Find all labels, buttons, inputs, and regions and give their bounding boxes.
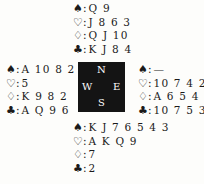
heart-icon: ♡ [6,77,16,91]
south-hand: ♠:K J 7 6 5 4 3 ♡:A K Q 9 ♢:7 ♣:2 [73,121,170,175]
east-hearts-cards: 10 7 4 2 [154,77,204,91]
west-clubs-row: ♣:A Q 9 6 [6,104,75,118]
heart-icon: ♡ [73,135,83,149]
separator: : [83,148,87,162]
south-clubs-row: ♣:2 [73,162,170,176]
south-diamonds-row: ♢:7 [73,148,170,162]
separator: : [148,63,152,77]
compass-table: N W E S [78,62,125,112]
heart-icon: ♡ [73,16,83,30]
compass-east-label: E [113,81,120,92]
east-diamonds-cards: A 6 5 4 3 [154,90,204,104]
north-hearts-cards: J 8 6 3 [89,16,132,30]
separator: : [83,16,87,30]
separator: : [83,43,87,57]
east-hand: ♠:— ♡:10 7 4 2 ♢:A 6 5 4 3 ♣:10 7 5 3 [138,63,204,117]
separator: : [83,135,87,149]
diamond-icon: ♢ [6,90,16,104]
separator: : [148,77,152,91]
south-spades-cards: K J 7 6 5 4 3 [89,121,170,135]
club-icon: ♣ [73,43,83,57]
south-clubs-cards: 2 [89,162,97,176]
north-clubs-cards: K J 8 4 [89,43,133,57]
separator: : [16,63,20,77]
compass-south-label: S [98,97,105,108]
heart-icon: ♡ [138,77,148,91]
separator: : [83,162,87,176]
west-clubs-cards: A Q 9 6 [22,104,70,118]
spade-icon: ♠ [73,2,83,16]
north-clubs-row: ♣:K J 8 4 [73,43,132,57]
east-spades-row: ♠:— [138,63,204,77]
club-icon: ♣ [73,162,83,176]
diamond-icon: ♢ [138,90,148,104]
diamond-icon: ♢ [73,29,83,43]
club-icon: ♣ [138,104,148,118]
west-hearts-cards: 5 [22,77,30,91]
separator: : [16,77,20,91]
north-diamonds-cards: Q J 10 [89,29,129,43]
separator: : [148,90,152,104]
west-hand: ♠:A 10 8 2 ♡:5 ♢:K 9 8 2 ♣:A Q 9 6 [6,63,75,117]
spade-icon: ♠ [6,63,16,77]
west-spades-row: ♠:A 10 8 2 [6,63,75,77]
north-spades-cards: Q 9 [89,2,111,16]
east-hearts-row: ♡:10 7 4 2 [138,77,204,91]
separator: : [16,104,20,118]
south-diamonds-cards: 7 [89,148,97,162]
west-diamonds-row: ♢:K 9 8 2 [6,90,75,104]
east-spades-cards: — [154,63,166,77]
north-diamonds-row: ♢:Q J 10 [73,29,132,43]
spade-icon: ♠ [138,63,148,77]
north-hand: ♠:Q 9 ♡:J 8 6 3 ♢:Q J 10 ♣:K J 8 4 [73,2,132,56]
south-spades-row: ♠:K J 7 6 5 4 3 [73,121,170,135]
south-hearts-cards: A K Q 9 [89,135,138,149]
separator: : [83,2,87,16]
north-hearts-row: ♡:J 8 6 3 [73,16,132,30]
east-clubs-cards: 10 7 5 3 [154,104,204,118]
north-spades-row: ♠:Q 9 [73,2,132,16]
east-diamonds-row: ♢:A 6 5 4 3 [138,90,204,104]
separator: : [16,90,20,104]
separator: : [83,121,87,135]
south-hearts-row: ♡:A K Q 9 [73,135,170,149]
west-hearts-row: ♡:5 [6,77,75,91]
club-icon: ♣ [6,104,16,118]
west-spades-cards: A 10 8 2 [22,63,76,77]
west-diamonds-cards: K 9 8 2 [22,90,68,104]
diamond-icon: ♢ [73,148,83,162]
separator: : [83,29,87,43]
spade-icon: ♠ [73,121,83,135]
separator: : [148,104,152,118]
compass-north-label: N [97,64,106,75]
east-clubs-row: ♣:10 7 5 3 [138,104,204,118]
compass-west-label: W [82,81,92,92]
